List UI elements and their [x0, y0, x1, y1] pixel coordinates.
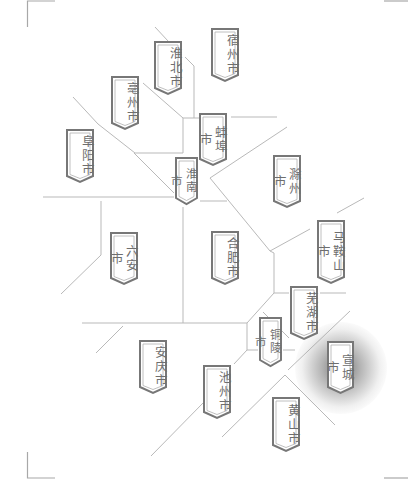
city-banner-maanshan[interactable]: 马鞍山市	[317, 220, 345, 284]
city-banner-huangshan[interactable]: 黄山市	[272, 397, 300, 452]
city-banner-chuzhou[interactable]: 滁州市	[273, 155, 301, 208]
city-name: 滁州市	[273, 161, 301, 202]
city-banner-hefei[interactable]: 合肥市	[211, 231, 239, 285]
city-name: 淮南市	[175, 163, 198, 199]
city-banner-wuhu[interactable]: 芜湖市	[290, 286, 318, 340]
city-banner-bozhou[interactable]: 亳州市	[111, 76, 139, 130]
city-name: 宣城市	[327, 347, 354, 388]
city-name: 蚌埠市	[199, 119, 227, 160]
city-name: 淮北市	[154, 47, 182, 89]
city-name: 合肥市	[211, 237, 239, 279]
city-banner-huainan[interactable]: 淮南市	[175, 157, 198, 205]
city-name: 马鞍山市	[317, 226, 345, 278]
city-name: 铜陵市	[259, 323, 282, 361]
city-banner-fuyang[interactable]: 阜阳市	[66, 129, 94, 183]
city-banner-anqing[interactable]: 安庆市	[139, 340, 167, 394]
city-banner-tongling[interactable]: 铜陵市	[259, 317, 282, 367]
city-banner-bengbu[interactable]: 蚌埠市	[199, 113, 227, 166]
city-name: 池州市	[203, 371, 231, 413]
city-name: 黄山市	[272, 403, 300, 446]
city-name: 亳州市	[111, 82, 139, 124]
city-name: 阜阳市	[66, 135, 94, 177]
city-name: 安庆市	[139, 346, 167, 388]
city-banner-luan[interactable]: 六安市	[110, 232, 138, 285]
frame-corner-top-left	[28, 1, 56, 27]
city-name: 六安市	[110, 238, 138, 279]
city-banner-chizhou[interactable]: 池州市	[203, 365, 231, 419]
frame-corner-bottom-left	[28, 452, 56, 478]
city-banner-suzhou[interactable]: 宿州市	[211, 28, 239, 82]
city-name: 芜湖市	[290, 292, 318, 334]
city-banner-huaibei[interactable]: 淮北市	[154, 41, 182, 95]
city-banner-xuancheng[interactable]: 宣城市	[327, 341, 354, 394]
city-name: 宿州市	[211, 34, 239, 76]
